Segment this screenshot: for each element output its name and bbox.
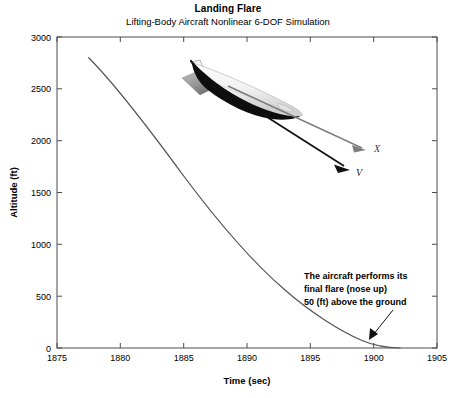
y-tick-label: 2500: [31, 84, 51, 94]
x-axis-title: Time (sec): [224, 375, 271, 386]
x-tick-label: 1885: [174, 353, 194, 363]
callout-line-1: The aircraft performs its: [304, 271, 408, 281]
y-tick-labels: 0 500 1000 1500 2000 2500 3000: [31, 33, 51, 354]
y-tick-label: 3000: [31, 33, 51, 43]
callout-line-2: final flare (nose up): [304, 284, 387, 294]
x-tick-label: 1890: [237, 353, 257, 363]
y-tick-label: 500: [36, 292, 51, 302]
x-tick-label: 1900: [364, 353, 384, 363]
callout-line-3: 50 (ft) above the ground: [304, 297, 407, 307]
x-tick-label: 1905: [427, 353, 447, 363]
y-tick-label: 2000: [31, 136, 51, 146]
y-tick-label: 1000: [31, 240, 51, 250]
x-tick-label: 1880: [110, 353, 130, 363]
x-tick-labels: 1875 1880 1885 1890 1895 1900 1905: [47, 353, 447, 363]
x-tick-label: 1895: [300, 353, 320, 363]
y-axis-title: Altitude (ft): [8, 167, 19, 218]
y-tick-label: 1500: [31, 188, 51, 198]
figure-container: Landing Flare Lifting-Body Aircraft Nonl…: [0, 0, 456, 398]
vector-x-label: X: [373, 143, 381, 154]
y-tick-label: 0: [46, 344, 51, 354]
altitude-vs-time-chart: 1875 1880 1885 1890 1895 1900 1905 0 500…: [0, 0, 456, 398]
x-tick-label: 1875: [47, 353, 67, 363]
